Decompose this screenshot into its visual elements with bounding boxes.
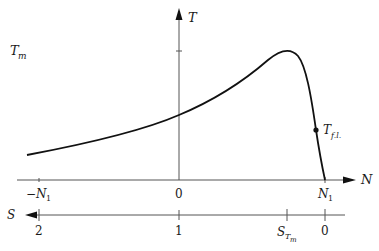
- svg-text:−N: −N: [26, 187, 47, 201]
- label-s-one: 1: [175, 224, 183, 238]
- n-axis-label: N: [360, 172, 373, 187]
- svg-text:m: m: [290, 236, 297, 244]
- full-load-point: [313, 127, 318, 132]
- n-axis-arrow-icon: [343, 177, 356, 184]
- t-axis-arrow-icon: [176, 8, 183, 20]
- svg-text:1: 1: [46, 194, 51, 203]
- svg-text:S: S: [277, 225, 285, 239]
- svg-text:1: 1: [328, 194, 333, 203]
- label-neg-n1: −N 1: [26, 187, 51, 203]
- tm-label: T m: [10, 43, 27, 61]
- s-axis-label: S: [7, 208, 15, 222]
- torque-speed-diagram: T T m N −N 1 0 N 1 S 2 1 S T m 0 T f.l.: [0, 0, 379, 251]
- label-s-two: 2: [35, 224, 43, 238]
- s-axis-arrow-icon: [25, 212, 37, 219]
- label-s-tm: S T m: [277, 225, 297, 244]
- label-zero-n: 0: [175, 187, 183, 201]
- t-axis-label: T: [188, 10, 198, 25]
- label-s-zero: 0: [321, 224, 329, 238]
- torque-curve: [27, 51, 325, 180]
- svg-text:f.l.: f.l.: [330, 131, 341, 140]
- tfl-label: T f.l.: [323, 123, 341, 140]
- label-n1: N 1: [317, 187, 333, 203]
- svg-text:m: m: [18, 51, 27, 61]
